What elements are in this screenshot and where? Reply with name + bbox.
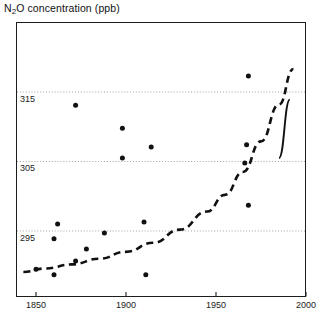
- x-tick-label-1950: 1950: [206, 300, 226, 310]
- y-tick-label-295: 295: [20, 233, 35, 243]
- x-tick-label-2000: 2000: [296, 300, 316, 310]
- y-tick-label-315: 315: [20, 94, 35, 104]
- chart-title-lead: N: [4, 2, 12, 14]
- chart-figure: N2O concentration (ppb) 295305315 185019…: [0, 0, 318, 324]
- chart-title: N2O concentration (ppb): [4, 2, 120, 18]
- x-tick-label-1900: 1900: [116, 300, 136, 310]
- x-tick-label-1850: 1850: [26, 300, 46, 310]
- y-tick-label-305: 305: [20, 163, 35, 173]
- chart-title-tail: O concentration (ppb): [16, 2, 120, 14]
- plot-area-frame: [16, 22, 306, 297]
